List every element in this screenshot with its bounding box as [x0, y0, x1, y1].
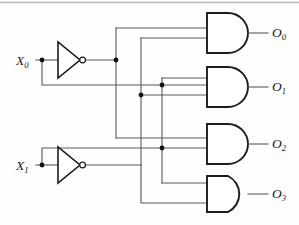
junction-x0-and1 [160, 83, 165, 88]
input-label-x0: X0 [15, 53, 29, 70]
and-gate-2-body [207, 124, 248, 164]
output-label-o3: O3 [272, 186, 286, 203]
output-label-o0: O0 [272, 25, 287, 42]
inverter-x1-bubble-icon [80, 162, 86, 168]
inverter-x1-triangle [58, 147, 80, 183]
logic-circuit-svg: X0 X1 O0 O1 O2 O3 [0, 0, 299, 225]
junction-x1not-and1 [139, 93, 144, 98]
and-gate-3[interactable] [207, 176, 268, 212]
junction-x1-and2 [160, 146, 165, 151]
junction-x1-tap [40, 163, 45, 168]
output-label-o1: O1 [272, 79, 286, 96]
inverter-x1[interactable] [58, 147, 86, 183]
inverter-x0[interactable] [58, 42, 86, 78]
circuit-diagram-canvas: X0 X1 O0 O1 O2 O3 [0, 0, 299, 225]
inverter-x0-bubble-icon [80, 57, 86, 63]
wire-x1not-to-and3 [141, 165, 207, 203]
and-gate-1[interactable] [207, 67, 268, 107]
inverter-x0-triangle [58, 42, 80, 78]
and-gate-2[interactable] [207, 124, 268, 164]
output-label-o2: O2 [272, 136, 287, 153]
input-label-x1: X1 [15, 158, 29, 175]
junction-x0not-bus [114, 58, 119, 63]
and-gate-1-body [207, 67, 248, 107]
and-gate-3-body [207, 176, 239, 212]
and-gate-0[interactable] [207, 13, 268, 53]
junction-x0-tap [40, 58, 45, 63]
and-gate-0-body [207, 13, 248, 53]
